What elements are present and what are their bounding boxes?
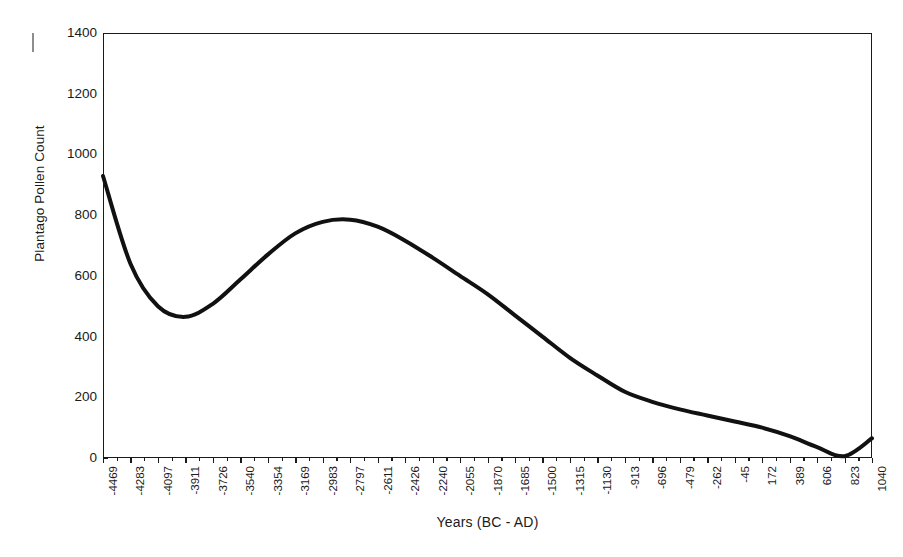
x-tick-mark [570, 458, 571, 463]
x-tick-mark [185, 458, 186, 463]
x-tick-mark [680, 458, 681, 463]
x-tick-mark-minor [556, 458, 557, 461]
x-tick-mark-minor [748, 458, 749, 461]
x-tick-mark [460, 458, 461, 463]
y-tick-label: 0 [51, 451, 97, 465]
x-tick-label: -2611 [383, 466, 395, 495]
x-tick-mark [350, 458, 351, 463]
x-tick-label: -2055 [465, 466, 477, 495]
x-tick-label: 172 [767, 466, 779, 485]
x-tick-label: -479 [685, 466, 697, 489]
x-tick-label: -2983 [328, 466, 340, 495]
x-tick-label: -2797 [355, 466, 367, 495]
x-tick-label: 389 [795, 466, 807, 485]
x-tick-label: -1500 [547, 466, 559, 495]
x-tick-label: -2426 [410, 466, 422, 495]
x-tick-mark-minor [144, 458, 145, 461]
x-tick-mark [378, 458, 379, 463]
y-tick-label: 400 [51, 330, 97, 344]
x-tick-mark-minor [858, 458, 859, 461]
x-tick-mark-minor [776, 458, 777, 461]
x-tick-mark [542, 458, 543, 463]
x-tick-label: -3354 [273, 466, 285, 495]
x-tick-mark-minor [254, 458, 255, 461]
y-tick-label: 1200 [51, 87, 97, 101]
x-tick-label: -45 [740, 466, 752, 483]
x-axis-title: Years (BC - AD) [103, 514, 872, 530]
x-tick-mark [872, 458, 873, 463]
x-tick-mark [158, 458, 159, 463]
x-tick-mark-minor [584, 458, 585, 461]
x-tick-mark [762, 458, 763, 463]
y-axis-title: Plantago Pollen Count [32, 84, 47, 304]
scan-artifact-mark [32, 33, 34, 52]
x-tick-mark [323, 458, 324, 463]
x-tick-mark-minor [446, 458, 447, 461]
x-tick-mark-minor [474, 458, 475, 461]
plot-area [103, 33, 872, 458]
y-tick-label: 600 [51, 269, 97, 283]
x-tick-mark-minor [803, 458, 804, 461]
x-tick-mark-minor [364, 458, 365, 461]
x-tick-mark-minor [117, 458, 118, 461]
x-tick-mark [735, 458, 736, 463]
x-tick-mark [790, 458, 791, 463]
y-tick-label: 200 [51, 390, 97, 404]
x-tick-label: -3911 [190, 466, 202, 495]
x-tick-mark-minor [639, 458, 640, 461]
x-tick-mark-minor [666, 458, 667, 461]
x-tick-mark [817, 458, 818, 463]
x-tick-mark [488, 458, 489, 463]
x-tick-mark-minor [391, 458, 392, 461]
x-tick-mark-minor [529, 458, 530, 461]
x-tick-mark-minor [336, 458, 337, 461]
x-tick-mark [295, 458, 296, 463]
x-tick-label: -2240 [438, 466, 450, 495]
x-tick-mark [405, 458, 406, 463]
x-tick-label: -3540 [245, 466, 257, 495]
x-tick-mark-minor [831, 458, 832, 461]
x-tick-mark-minor [199, 458, 200, 461]
x-tick-mark [625, 458, 626, 463]
x-tick-label: 1040 [877, 466, 889, 492]
x-tick-label: -1130 [602, 466, 614, 495]
x-tick-mark [103, 458, 104, 463]
x-tick-mark [240, 458, 241, 463]
y-axis-tick-labels: 0200400600800100012001400 [47, 33, 97, 458]
pollen-count-line-chart: Plantago Pollen Count 020040060080010001… [0, 0, 903, 557]
x-tick-mark-minor [419, 458, 420, 461]
x-tick-mark [845, 458, 846, 463]
x-tick-label: -4469 [108, 466, 120, 495]
y-tick-label: 800 [51, 208, 97, 222]
y-tick-label: 1000 [51, 147, 97, 161]
x-tick-mark-minor [611, 458, 612, 461]
x-tick-mark-minor [172, 458, 173, 461]
x-tick-mark [707, 458, 708, 463]
x-tick-mark-minor [282, 458, 283, 461]
x-tick-mark [213, 458, 214, 463]
series-line-plantago [103, 176, 872, 456]
x-tick-label: -4097 [163, 466, 175, 495]
x-tick-mark [515, 458, 516, 463]
x-tick-mark-minor [227, 458, 228, 461]
y-tick-label: 1400 [51, 26, 97, 40]
x-tick-label: -1315 [575, 466, 587, 495]
x-tick-label: -3169 [300, 466, 312, 495]
x-tick-mark [268, 458, 269, 463]
x-tick-mark-minor [721, 458, 722, 461]
x-tick-mark-minor [309, 458, 310, 461]
x-tick-label: -696 [657, 466, 669, 489]
x-tick-mark [597, 458, 598, 463]
x-tick-label: 823 [850, 466, 862, 485]
x-tick-label: -4283 [135, 466, 147, 495]
x-tick-mark [652, 458, 653, 463]
x-tick-label: -1685 [520, 466, 532, 495]
x-tick-mark-minor [501, 458, 502, 461]
x-tick-label: 606 [822, 466, 834, 485]
x-tick-label: -262 [712, 466, 724, 489]
x-tick-label: -1870 [493, 466, 505, 495]
x-tick-label: -913 [630, 466, 642, 489]
x-tick-mark-minor [693, 458, 694, 461]
x-tick-mark [433, 458, 434, 463]
x-tick-label: -3726 [218, 466, 230, 495]
